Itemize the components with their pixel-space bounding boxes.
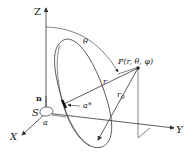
x-axis-label: X — [9, 131, 18, 142]
a-label: a — [43, 118, 48, 127]
y-axis-label: Y — [176, 124, 184, 135]
y-axis — [46, 113, 174, 128]
a-star-label: a* — [83, 101, 92, 110]
a-star-arrow — [68, 105, 80, 106]
theta-arc — [46, 27, 118, 72]
diagram-canvas: Z Y X P(r, θ, φ) n S a a* r r0 θ — [0, 0, 190, 153]
r0-label: r0 — [117, 90, 125, 100]
r-label: r — [103, 77, 108, 86]
p-ground-line — [138, 128, 150, 138]
surface-element-icon — [40, 107, 53, 116]
point-p-label: P(r, θ, φ) — [117, 57, 153, 66]
surface-label: S — [32, 107, 39, 118]
theta-label: θ — [83, 37, 88, 46]
normal-label: n — [36, 93, 42, 103]
aperture-inner-edge — [57, 45, 90, 146]
r-vector — [64, 68, 138, 104]
z-axis-label: Z — [34, 6, 41, 17]
